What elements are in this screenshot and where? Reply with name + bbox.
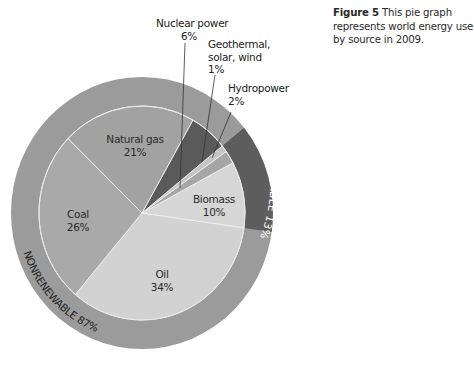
- label-geothermal-name1: Geothermal,: [208, 38, 270, 51]
- label-natural-gas-pct: 21%: [100, 146, 170, 159]
- label-hydropower: Hydropower 2%: [228, 82, 289, 107]
- label-biomass: Biomass 10%: [190, 193, 238, 219]
- label-geothermal-name2: solar, wind: [208, 51, 270, 64]
- label-natural-gas: Natural gas 21%: [100, 133, 170, 159]
- label-coal: Coal 26%: [58, 208, 98, 234]
- label-geothermal: Geothermal, solar, wind 1%: [208, 38, 270, 76]
- label-oil-name: Oil: [142, 268, 182, 281]
- label-coal-pct: 26%: [58, 221, 98, 234]
- label-geothermal-pct: 1%: [208, 63, 270, 76]
- label-natural-gas-name: Natural gas: [100, 133, 170, 146]
- label-hydropower-pct: 2%: [228, 95, 289, 108]
- label-nuclear-name: Nuclear power: [156, 17, 222, 30]
- label-biomass-pct: 10%: [190, 206, 238, 219]
- figure-caption: Figure 5 This pie graph represents world…: [333, 6, 474, 47]
- label-hydropower-name: Hydropower: [228, 82, 289, 95]
- label-oil-pct: 34%: [142, 281, 182, 294]
- label-biomass-name: Biomass: [190, 193, 238, 206]
- label-coal-name: Coal: [58, 208, 98, 221]
- figure-label: Figure 5: [333, 7, 379, 18]
- label-oil: Oil 34%: [142, 268, 182, 294]
